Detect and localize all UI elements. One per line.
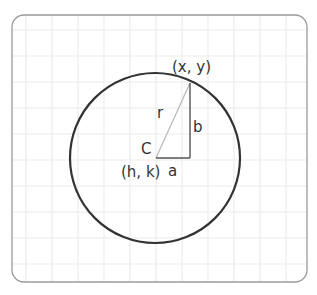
vertical-leg-label: b [193, 118, 203, 136]
circle [70, 73, 240, 243]
circle-diagram: (x, y) r b C (h, k) a [0, 0, 317, 295]
point-label: (x, y) [172, 58, 211, 76]
center-coords-label: (h, k) [121, 163, 160, 181]
radius-label: r [157, 104, 164, 122]
horizontal-leg-label: a [168, 162, 177, 180]
center-letter-label: C [141, 140, 151, 158]
